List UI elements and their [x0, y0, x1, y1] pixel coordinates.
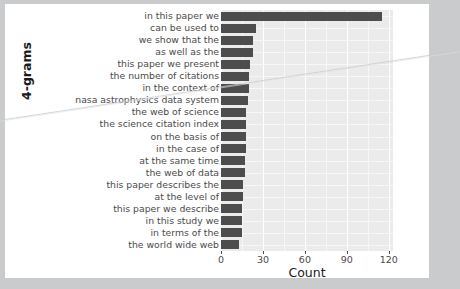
y-axis-tick-mark — [235, 209, 238, 210]
y-axis-tick-label: this paper we present — [29, 59, 219, 69]
x-axis-tick-label: 60 — [299, 254, 311, 265]
y-axis-tick-label: at the same time — [29, 156, 219, 166]
y-axis-tick-label: the web of data — [29, 168, 219, 178]
y-axis-tick-mark — [235, 161, 238, 162]
bar — [221, 204, 242, 213]
y-axis-tick-mark — [235, 197, 238, 198]
gridline-horizontal — [221, 185, 393, 186]
bar — [221, 192, 243, 201]
y-axis-tick-mark — [235, 233, 238, 234]
bar — [221, 24, 256, 33]
gridline-horizontal — [221, 112, 393, 113]
y-axis-tick-label: at the level of — [29, 192, 219, 202]
gridline-horizontal — [221, 245, 393, 246]
x-axis-tick-label: 0 — [218, 254, 224, 265]
y-axis-tick-label: the web of science — [29, 107, 219, 117]
gridline-horizontal — [221, 209, 393, 210]
y-axis-tick-mark — [235, 100, 238, 101]
gridline-vertical — [347, 10, 348, 251]
y-axis-tick-mark — [235, 185, 238, 186]
y-axis-tick-mark — [235, 124, 238, 125]
y-axis-tick-mark — [235, 112, 238, 113]
y-axis-tick-labels: in this paper wecan be used towe show th… — [23, 10, 219, 251]
y-axis-tick-mark — [235, 64, 238, 65]
y-axis-tick-label: the number of citations — [29, 71, 219, 81]
y-axis-tick-label: in this study we — [29, 216, 219, 226]
y-axis-title: 4-grams — [19, 42, 34, 100]
x-axis-tick-label: 30 — [257, 254, 269, 265]
y-axis-tick-label: in this paper we — [29, 11, 219, 21]
y-axis-tick-mark — [235, 245, 238, 246]
y-axis-tick-mark — [235, 52, 238, 53]
gridline-horizontal — [221, 161, 393, 162]
gridline-horizontal — [221, 149, 393, 150]
gridline-horizontal — [221, 233, 393, 234]
gridline-vertical — [263, 10, 264, 251]
gridline-horizontal — [221, 173, 393, 174]
y-axis-tick-mark — [235, 28, 238, 29]
x-axis-title: Count — [221, 265, 393, 280]
y-axis-tick-label: the science citation index — [29, 119, 219, 129]
gridline-vertical — [221, 10, 222, 251]
y-axis-tick-label: in the case of — [29, 144, 219, 154]
y-axis-tick-mark — [235, 16, 238, 17]
bar — [221, 216, 242, 225]
bar — [221, 12, 382, 21]
y-axis-tick-mark — [235, 76, 238, 77]
gridline-vertical-minor — [326, 10, 327, 251]
y-axis-tick-label: this paper describes the — [29, 180, 219, 190]
y-axis-tick-label: in terms of the — [29, 228, 219, 238]
y-axis-tick-label: as well as the — [29, 47, 219, 57]
x-axis-tick-label: 90 — [341, 254, 353, 265]
y-axis-tick-label: on the basis of — [29, 132, 219, 142]
y-axis-tick-mark — [235, 88, 238, 89]
y-axis-tick-mark — [235, 221, 238, 222]
x-axis-tick-label: 120 — [380, 254, 398, 265]
y-axis-tick-mark — [235, 173, 238, 174]
bar — [221, 156, 245, 165]
gridline-horizontal — [221, 137, 393, 138]
bar — [221, 108, 246, 117]
bar — [221, 180, 243, 189]
bar — [221, 120, 246, 129]
gridline-horizontal — [221, 221, 393, 222]
x-axis: 0306090120 Count — [5, 251, 429, 278]
y-axis-tick-mark — [235, 40, 238, 41]
bar — [221, 168, 245, 177]
y-axis-tick-label: this paper we describe — [29, 204, 219, 214]
gridline-vertical-minor — [242, 10, 243, 251]
plot-panel — [221, 10, 393, 251]
bar — [221, 132, 246, 141]
gridline-horizontal — [221, 197, 393, 198]
bar — [221, 144, 246, 153]
chart-figure: in this paper wecan be used towe show th… — [5, 4, 429, 278]
gridline-vertical-minor — [368, 10, 369, 251]
y-axis-tick-label: nasa astrophysics data system — [29, 95, 219, 105]
y-axis-tick-mark — [235, 149, 238, 150]
y-axis-tick-label: can be used to — [29, 23, 219, 33]
y-axis-tick-label: the world wide web — [29, 240, 219, 250]
gridline-vertical — [389, 10, 390, 251]
page-sheet: in this paper wecan be used towe show th… — [5, 4, 429, 278]
y-axis-tick-label: in the context of — [29, 83, 219, 93]
gridline-vertical — [305, 10, 306, 251]
y-axis-tick-label: we show that the — [29, 35, 219, 45]
bar — [221, 228, 242, 237]
gridline-vertical-minor — [284, 10, 285, 251]
gridline-horizontal — [221, 124, 393, 125]
y-axis-tick-mark — [235, 137, 238, 138]
